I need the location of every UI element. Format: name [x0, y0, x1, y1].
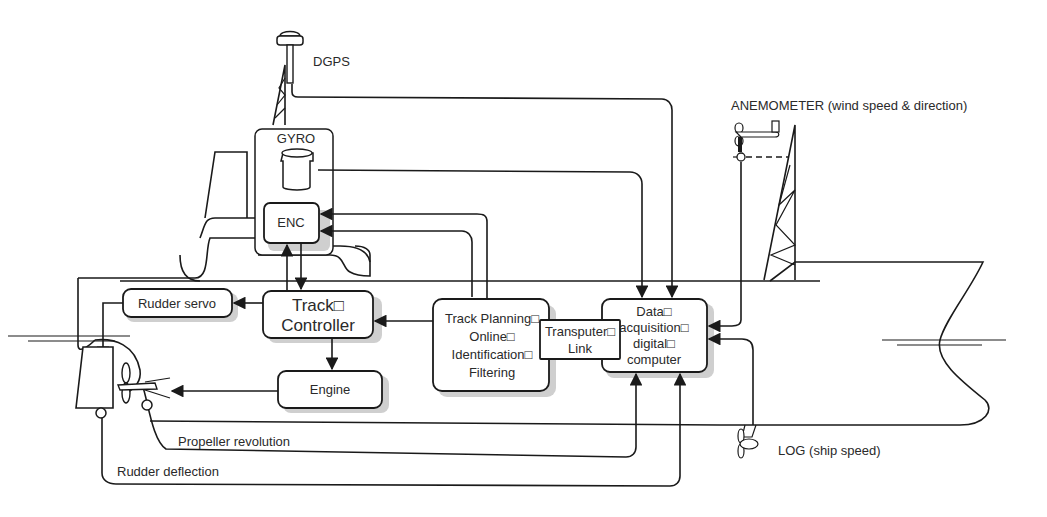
track-planning-line1: Track Planning□: [445, 311, 539, 326]
gyro-label: GYRO: [277, 131, 315, 146]
engine-label: Engine: [310, 382, 350, 397]
anemometer-mast: [764, 125, 795, 280]
transputer-link-line1: Transputer□: [545, 324, 615, 339]
anemometer-label: ANEMOMETER (wind speed & direction): [731, 98, 967, 113]
transputer-link-line2: Link: [568, 341, 592, 356]
log-icon: [738, 425, 758, 458]
log-label: LOG (ship speed): [778, 443, 881, 458]
track-controller-line1: Track□: [292, 296, 344, 315]
data-acquisition-line2: acquisition□: [619, 320, 688, 335]
track-planning-line3: Identification□: [452, 347, 533, 362]
anemometer-icon: [733, 121, 789, 161]
track-planning-line2: Online□: [469, 329, 515, 344]
rudder-deflection-label: Rudder deflection: [117, 464, 219, 479]
propeller-revolution-label: Propeller revolution: [178, 434, 290, 449]
dgps-antenna-icon: [277, 32, 303, 84]
track-controller-line2: Controller: [281, 316, 355, 335]
rudder-icon: [76, 347, 113, 418]
data-acquisition-line4: computer: [627, 352, 682, 367]
data-acquisition-line3: digital□: [633, 336, 675, 351]
dgps-label: DGPS: [313, 54, 350, 69]
rudder-servo-label: Rudder servo: [138, 296, 216, 311]
track-planning-line4: Filtering: [469, 365, 515, 380]
propeller-icon: [118, 363, 170, 410]
gyro-icon: [281, 149, 313, 190]
signal-connections: [102, 84, 753, 486]
data-acquisition-line1: Data□: [636, 304, 671, 319]
dgps-mast: [273, 65, 285, 125]
enc-label: ENC: [277, 215, 304, 230]
ship-diagram: DGPS ANEMOMETER (wind speed & direction)…: [0, 0, 1047, 517]
